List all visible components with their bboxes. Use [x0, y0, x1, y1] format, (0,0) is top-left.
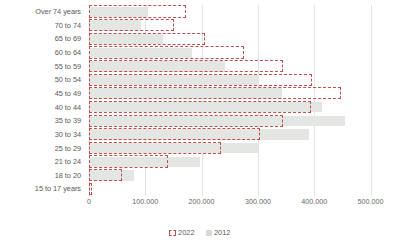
category-label: Over 74 years: [0, 5, 85, 19]
bar-rows: [89, 5, 371, 196]
bar-2022[interactable]: [89, 19, 174, 31]
value-tick-label: 200.000: [189, 198, 215, 205]
bar-2022[interactable]: [89, 5, 186, 17]
category-label: 40 to 44: [0, 100, 85, 114]
bar-row: [89, 182, 371, 196]
bar-row: [89, 100, 371, 114]
bar-2022[interactable]: [89, 155, 168, 167]
category-label: 60 to 64: [0, 46, 85, 60]
value-axis: 0100.000200.000300.000400.000500.000: [89, 198, 371, 212]
bar-row: [89, 128, 371, 142]
bar-2022[interactable]: [89, 128, 260, 140]
bar-row: [89, 114, 371, 128]
legend-label: 2022: [178, 228, 194, 237]
plot-area: [89, 5, 371, 196]
category-label: 55 to 59: [0, 60, 85, 74]
gray-square-swatch-icon: [206, 230, 212, 236]
category-label: 30 to 34: [0, 128, 85, 142]
category-label: 18 to 20: [0, 169, 85, 183]
value-tick-label: 100.000: [132, 198, 158, 205]
bar-row: [89, 19, 371, 33]
dashed-square-swatch-icon: [169, 230, 176, 236]
bar-row: [89, 87, 371, 101]
bar-row: [89, 169, 371, 183]
category-label: 70 to 74: [0, 19, 85, 33]
bar-row: [89, 60, 371, 74]
bar-row: [89, 5, 371, 19]
category-label: 25 to 29: [0, 141, 85, 155]
category-label: 21 to 24: [0, 155, 85, 169]
value-tick-label: 300.000: [245, 198, 271, 205]
legend-item-2012[interactable]: 2012: [206, 228, 231, 237]
category-label: 15 to 17 years: [0, 182, 85, 196]
bar-row: [89, 46, 371, 60]
value-tick-label: 500.000: [358, 198, 384, 205]
bar-2022[interactable]: [89, 74, 312, 86]
chart-legend: 20222012: [0, 228, 399, 237]
population-pyramid-chart: Over 74 years70 to 7465 to 6960 to 6455 …: [0, 0, 399, 249]
bar-row: [89, 73, 371, 87]
category-axis: Over 74 years70 to 7465 to 6960 to 6455 …: [0, 5, 85, 196]
bar-2022[interactable]: [89, 142, 221, 154]
bar-2022[interactable]: [89, 46, 244, 58]
value-tick-label: 0: [87, 198, 91, 205]
value-tick-label: 400.000: [301, 198, 327, 205]
bar-2022[interactable]: [89, 87, 341, 99]
legend-item-2022[interactable]: 2022: [169, 228, 195, 237]
bar-row: [89, 141, 371, 155]
bar-2022[interactable]: [89, 101, 311, 113]
bar-2022[interactable]: [89, 60, 283, 72]
bar-2022[interactable]: [89, 169, 122, 181]
bar-row: [89, 155, 371, 169]
category-label: 50 to 54: [0, 73, 85, 87]
bar-2022[interactable]: [89, 33, 205, 45]
category-label: 45 to 49: [0, 87, 85, 101]
bar-2022[interactable]: [89, 183, 92, 195]
gridline: [371, 5, 372, 196]
bar-row: [89, 32, 371, 46]
category-label: 65 to 69: [0, 32, 85, 46]
bar-2022[interactable]: [89, 115, 283, 127]
category-label: 35 to 39: [0, 114, 85, 128]
legend-label: 2012: [214, 228, 230, 237]
